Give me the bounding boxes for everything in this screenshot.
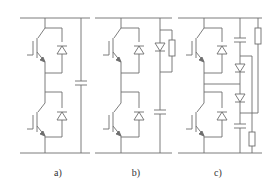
igbt-upper xyxy=(186,18,204,73)
diode-lower xyxy=(45,92,67,137)
snubber-diode-upper xyxy=(235,56,252,94)
igbt-lower xyxy=(186,92,222,153)
diode-lower xyxy=(121,92,144,137)
snubber-capacitor-upper xyxy=(234,18,246,64)
diode-upper xyxy=(45,28,67,73)
diode-upper xyxy=(121,28,144,73)
discharge-resistor-lower xyxy=(249,56,255,153)
igbt-upper xyxy=(27,18,45,73)
diode-upper xyxy=(204,28,227,73)
discharge-resistor-upper xyxy=(255,18,261,113)
panel-c xyxy=(178,18,262,153)
igbt-upper xyxy=(103,18,121,73)
igbt-lower xyxy=(27,92,62,153)
igbt-lower xyxy=(103,92,139,153)
diode-lower xyxy=(204,92,227,137)
circuit-diagram xyxy=(0,0,280,188)
snubber-diode-lower xyxy=(235,94,258,124)
snubber-capacitor xyxy=(154,72,166,153)
panel-label-a: a) xyxy=(48,167,68,178)
panel-a xyxy=(20,18,90,153)
snubber-capacitor-lower xyxy=(234,124,246,153)
capacitor-dc-link xyxy=(75,18,87,153)
panel-b xyxy=(95,18,175,153)
panel-label-c: c) xyxy=(208,167,228,178)
panel-label-b: b) xyxy=(126,167,146,178)
